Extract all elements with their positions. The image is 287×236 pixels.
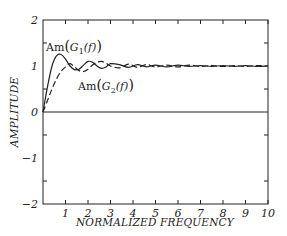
y-tick-label: 0 [31, 106, 38, 119]
y-tick-label: −1 [22, 152, 38, 165]
x-axis-title: NORMALIZED FREQUENCY [75, 216, 235, 229]
y-tick-label: 2 [30, 14, 38, 27]
series-g1-line [43, 54, 268, 112]
x-tick-label: 1 [62, 207, 69, 220]
x-tick-label: 10 [261, 207, 275, 220]
y-tick-label: 1 [31, 60, 38, 73]
series-g2-line [43, 61, 268, 112]
x-tick-label: 9 [242, 207, 249, 220]
y-axis-title: AMPLITUDE [8, 77, 20, 148]
series-layer [43, 54, 268, 112]
annotation-g2: Am(G2(f)) [77, 77, 134, 95]
y-tick-label: −2 [22, 198, 38, 211]
annotation-g1: Am(G1(f)) [45, 38, 102, 56]
amplitude-chart: 12345678910 210−1−2 Am(G1(f)) Am(G2(f)) … [0, 0, 287, 236]
